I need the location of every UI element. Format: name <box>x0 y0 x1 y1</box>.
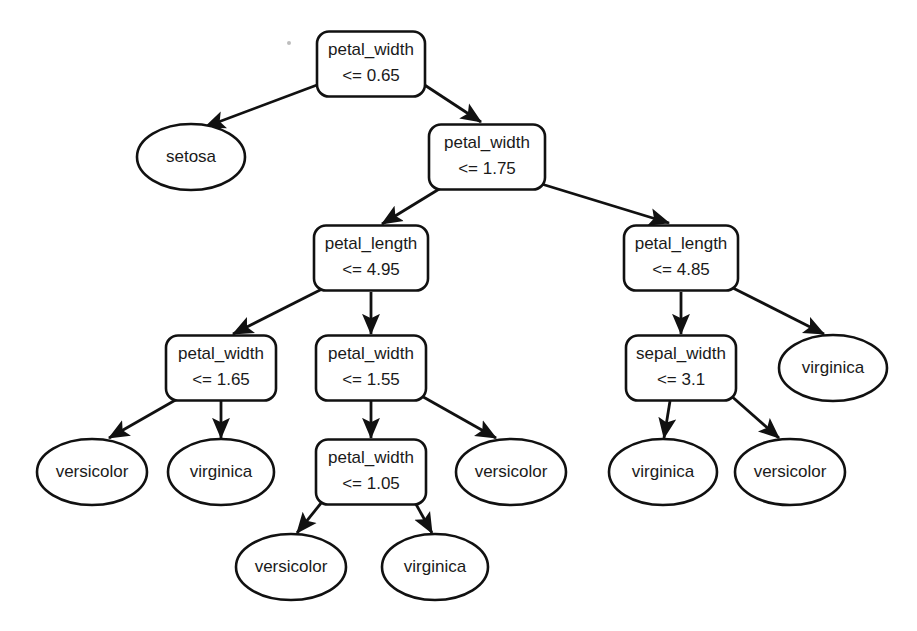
leaf-node-versicolor-n9[interactable]: versicolor <box>37 439 147 505</box>
node-feature-label: petal_width <box>328 344 414 363</box>
node-condition-label: <= 3.1 <box>657 370 705 389</box>
decision-node-sepal_width-n7[interactable]: sepal_width<= 3.1 <box>626 336 736 401</box>
tree-edge-n6-to-n12 <box>418 394 496 438</box>
tree-edge-n7-to-n14 <box>729 394 779 438</box>
node-feature-label: petal_width <box>328 40 414 59</box>
decision-node-petal_width-n2[interactable]: petal_width<= 1.75 <box>429 125 545 190</box>
decision-node-petal_length-n4[interactable]: petal_length<= 4.85 <box>624 226 738 291</box>
paper-speck <box>287 41 291 45</box>
leaf-class-label: versicolor <box>56 462 129 481</box>
leaf-node-virginica-n16[interactable]: virginica <box>382 534 488 600</box>
decision-node-petal_width-n6[interactable]: petal_width<= 1.55 <box>316 336 426 401</box>
leaf-node-virginica-n10[interactable]: virginica <box>168 439 274 505</box>
node-feature-label: petal_length <box>635 234 728 253</box>
tree-edge-n3-to-n5 <box>233 285 330 334</box>
decision-tree-diagram: petal_width<= 0.65setosapetal_width<= 1.… <box>0 0 917 631</box>
leaf-node-versicolor-n14[interactable]: versicolor <box>735 439 845 505</box>
node-condition-label: <= 1.05 <box>342 474 400 493</box>
leaf-node-virginica-n8[interactable]: virginica <box>779 335 887 401</box>
tree-edge-n7-to-n13 <box>664 401 670 438</box>
node-feature-label: petal_width <box>178 344 264 363</box>
leaf-node-versicolor-n15[interactable]: versicolor <box>236 534 346 600</box>
decision-node-petal_width-n5[interactable]: petal_width<= 1.65 <box>166 336 276 401</box>
leaf-class-label: virginica <box>802 358 865 377</box>
tree-edge-n4-to-n8 <box>727 285 824 334</box>
node-feature-label: sepal_width <box>636 344 726 363</box>
node-condition-label: <= 4.85 <box>652 260 710 279</box>
leaf-class-label: versicolor <box>255 557 328 576</box>
leaf-node-virginica-n13[interactable]: virginica <box>609 439 717 505</box>
decision-node-petal_width-n0[interactable]: petal_width<= 0.65 <box>317 32 425 97</box>
node-condition-label: <= 1.75 <box>458 159 516 178</box>
leaf-class-label: setosa <box>166 147 217 166</box>
leaf-node-setosa-n1[interactable]: setosa <box>137 124 245 190</box>
node-condition-label: <= 1.65 <box>192 370 250 389</box>
decision-node-petal_length-n3[interactable]: petal_length<= 4.95 <box>314 226 428 291</box>
leaf-node-versicolor-n12[interactable]: versicolor <box>456 439 566 505</box>
tree-edge-n0-to-n2 <box>420 82 481 122</box>
leaf-class-label: versicolor <box>475 462 548 481</box>
tree-edge-n0-to-n1 <box>205 82 325 127</box>
decision-node-petal_width-n11[interactable]: petal_width<= 1.05 <box>316 440 426 505</box>
node-condition-label: <= 0.65 <box>342 66 400 85</box>
node-condition-label: <= 1.55 <box>342 370 400 389</box>
leaf-class-label: virginica <box>632 462 695 481</box>
node-feature-label: petal_width <box>444 133 530 152</box>
leaf-class-label: virginica <box>190 462 253 481</box>
node-feature-label: petal_width <box>328 448 414 467</box>
node-feature-label: petal_length <box>325 234 418 253</box>
tree-edge-n2-to-n4 <box>535 182 669 223</box>
node-condition-label: <= 4.95 <box>342 260 400 279</box>
leaf-class-label: versicolor <box>754 462 827 481</box>
nodes-layer: petal_width<= 0.65setosapetal_width<= 1.… <box>37 32 887 601</box>
leaf-class-label: virginica <box>404 557 467 576</box>
